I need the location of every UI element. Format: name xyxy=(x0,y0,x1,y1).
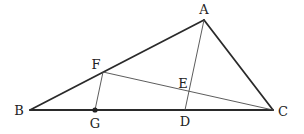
triangle-diagram: A B C D E F G xyxy=(0,0,304,134)
label-e: E xyxy=(178,76,188,91)
segment-fg xyxy=(95,72,103,110)
label-c: C xyxy=(278,104,288,119)
segment-ad xyxy=(185,20,204,110)
segment-ab xyxy=(30,20,204,110)
label-f: F xyxy=(91,57,100,72)
point-g-dot xyxy=(92,107,97,112)
label-b: B xyxy=(14,103,24,118)
label-d: D xyxy=(180,114,190,129)
label-a: A xyxy=(198,2,209,17)
label-g: G xyxy=(90,116,100,131)
